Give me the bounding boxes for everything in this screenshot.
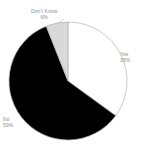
pie-label-yes-value: 35%	[120, 57, 130, 63]
pie-label-dont-know-value: 6%	[31, 14, 57, 20]
pie-slices	[9, 22, 127, 140]
pie-label-no: No 59%	[3, 116, 13, 128]
pie-label-dont-know: Don't Know 6%	[31, 8, 57, 20]
pie-label-yes: Yes 35%	[120, 51, 130, 63]
pie-chart: Don't Know 6% Yes 35% No 59%	[0, 0, 146, 149]
pie-chart-graphic	[0, 0, 146, 149]
pie-label-no-value: 59%	[3, 122, 13, 128]
